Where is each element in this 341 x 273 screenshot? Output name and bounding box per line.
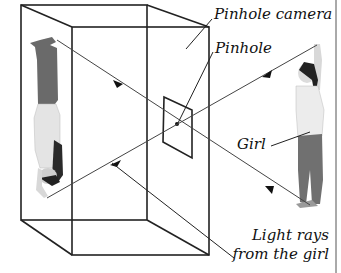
arrow-icon (262, 70, 272, 78)
label-light-rays-line2: from the girl (233, 246, 329, 263)
arrow-icon (113, 80, 123, 88)
arrow-icon (265, 186, 274, 194)
girl-image (296, 44, 324, 208)
inverted-girl-image (30, 37, 63, 198)
label-pinhole: Pinhole (215, 40, 272, 57)
pinhole-plate (163, 97, 192, 158)
label-light-rays-line1: Light rays (252, 227, 329, 244)
ray-feet-to-inverted (57, 40, 310, 205)
light-rays (47, 40, 317, 205)
pinhole-camera-diagram: Pinhole camera Pinhole Girl Light rays f… (0, 0, 341, 273)
label-girl: Girl (237, 136, 266, 153)
label-pinhole-camera: Pinhole camera (214, 6, 332, 23)
label-leaders (112, 19, 310, 258)
